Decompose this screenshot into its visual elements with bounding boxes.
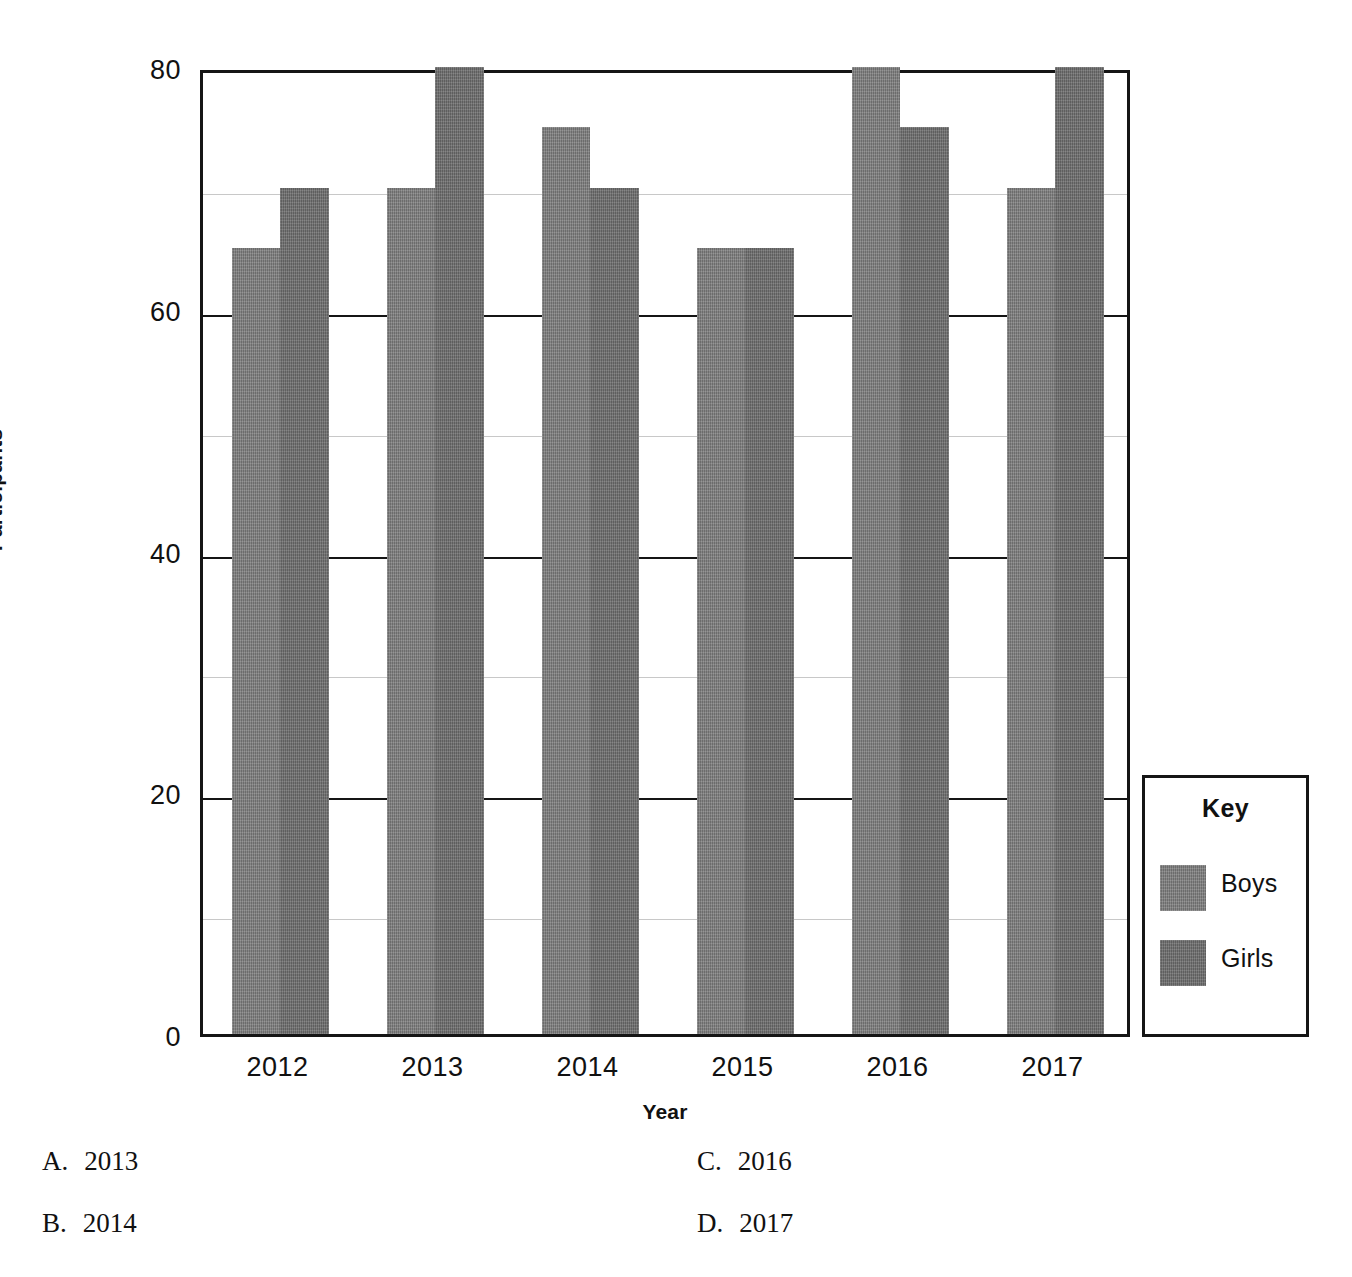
bar-boys-2016 bbox=[852, 67, 900, 1034]
bar-group bbox=[697, 73, 793, 1034]
bar-girls-2013 bbox=[435, 67, 483, 1034]
bar-group bbox=[542, 73, 638, 1034]
answer-option-text: 2014 bbox=[83, 1208, 137, 1238]
legend-label: Girls bbox=[1221, 944, 1273, 973]
answer-option-text: 2013 bbox=[84, 1146, 138, 1176]
x-tick-label: 2012 bbox=[198, 1052, 358, 1083]
bar-boys-2017 bbox=[1007, 188, 1055, 1034]
bar-boys-2013 bbox=[387, 188, 435, 1034]
x-tick-label: 2014 bbox=[508, 1052, 668, 1083]
bars-layer bbox=[203, 73, 1127, 1034]
answer-option-letter: C. bbox=[697, 1146, 722, 1176]
legend-title: Key bbox=[1145, 794, 1306, 823]
bar-girls-2016 bbox=[900, 127, 948, 1034]
bar-group bbox=[1007, 73, 1103, 1034]
answer-option-text: 2017 bbox=[739, 1208, 793, 1238]
answer-option-d[interactable]: D.2017 bbox=[697, 1208, 793, 1239]
x-tick-label: 2015 bbox=[663, 1052, 823, 1083]
y-tick-label: 0 bbox=[91, 1022, 181, 1053]
answer-option-text: 2016 bbox=[738, 1146, 792, 1176]
legend-swatch-girls bbox=[1160, 940, 1206, 986]
legend-label: Boys bbox=[1221, 869, 1277, 898]
bar-girls-2012 bbox=[280, 188, 328, 1034]
legend-entry-girls: Girls bbox=[1160, 940, 1300, 986]
y-tick-label: 60 bbox=[91, 296, 181, 327]
y-tick-label: 80 bbox=[91, 55, 181, 86]
y-tick-label: 40 bbox=[91, 538, 181, 569]
bar-boys-2015 bbox=[697, 248, 745, 1034]
answer-option-letter: B. bbox=[42, 1208, 67, 1238]
answer-option-a[interactable]: A.2013 bbox=[42, 1146, 138, 1177]
answer-option-letter: A. bbox=[42, 1146, 68, 1176]
y-tick-label: 20 bbox=[91, 780, 181, 811]
bar-boys-2014 bbox=[542, 127, 590, 1034]
answer-option-c[interactable]: C.2016 bbox=[697, 1146, 792, 1177]
y-axis-title: Participants bbox=[0, 375, 7, 605]
bar-group bbox=[387, 73, 483, 1034]
x-tick-label: 2016 bbox=[818, 1052, 978, 1083]
answer-options: A.2013B.2014C.2016D.2017 bbox=[0, 1140, 1352, 1277]
legend-box: Key BoysGirls bbox=[1142, 775, 1309, 1037]
legend-swatch-boys bbox=[1160, 865, 1206, 911]
bar-group bbox=[852, 73, 948, 1034]
plot-area bbox=[200, 70, 1130, 1037]
bar-girls-2017 bbox=[1055, 67, 1103, 1034]
x-tick-label: 2017 bbox=[973, 1052, 1133, 1083]
legend-entry-boys: Boys bbox=[1160, 865, 1300, 911]
bar-girls-2014 bbox=[590, 188, 638, 1034]
answer-option-letter: D. bbox=[697, 1208, 723, 1238]
x-axis-title: Year bbox=[200, 1100, 1130, 1124]
x-tick-label: 2013 bbox=[353, 1052, 513, 1083]
bar-boys-2012 bbox=[232, 248, 280, 1034]
bar-girls-2015 bbox=[745, 248, 793, 1034]
answer-option-b[interactable]: B.2014 bbox=[42, 1208, 137, 1239]
bar-group bbox=[232, 73, 328, 1034]
